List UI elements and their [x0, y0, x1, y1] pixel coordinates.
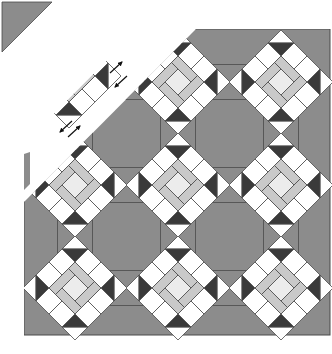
light-rect — [49, 63, 75, 89]
tip-west — [17, 63, 30, 89]
center-square — [56, 63, 82, 89]
white-square — [49, 43, 75, 69]
tip-east — [108, 63, 121, 89]
tip-north — [56, 24, 82, 37]
white-square — [43, 37, 69, 63]
tip-west — [23, 69, 36, 95]
star-block — [17, 24, 121, 128]
dark-triangle-north — [62, 43, 88, 56]
white-square — [36, 56, 62, 82]
corner-setting-triangle — [2, 2, 52, 52]
white-square — [69, 37, 95, 63]
tip-north — [165, 30, 191, 43]
dark-triangle-west — [36, 69, 49, 95]
white-square — [36, 82, 62, 108]
white-square — [30, 76, 56, 102]
quilt-body — [23, 29, 332, 340]
white-square — [75, 43, 101, 69]
tip-south — [56, 115, 82, 128]
light-rect — [43, 57, 69, 83]
light-rect — [63, 50, 89, 76]
tip-north — [62, 30, 88, 43]
white-square — [30, 50, 56, 76]
tip-north — [62, 133, 88, 146]
quilt-canvas — [0, 0, 332, 354]
dark-triangle-north — [56, 37, 82, 50]
strip-edge — [24, 152, 30, 196]
tip-west — [126, 69, 139, 95]
dark-triangle-west — [30, 63, 43, 89]
light-rect — [50, 76, 76, 102]
